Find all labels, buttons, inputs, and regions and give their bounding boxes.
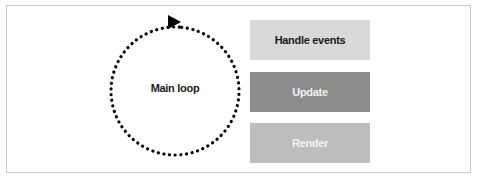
step-handle-events: Handle events (250, 20, 370, 60)
step-label: Update (292, 86, 327, 98)
main-loop-label: Main loop (125, 82, 225, 94)
step-update: Update (250, 72, 370, 112)
step-render: Render (250, 123, 370, 163)
step-label: Render (292, 137, 328, 149)
main-loop-circle (0, 0, 478, 183)
step-label: Handle events (275, 34, 346, 46)
